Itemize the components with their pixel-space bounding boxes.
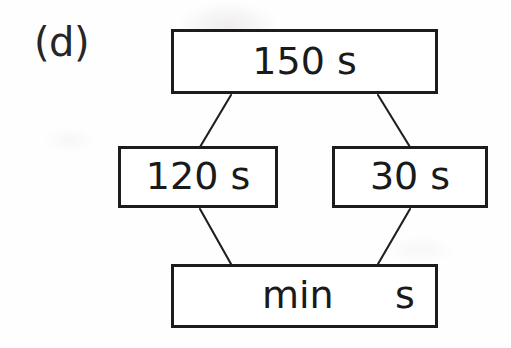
node-total-box: 150 s [171,29,438,94]
connector-part-left-to-answer [200,209,231,264]
connector-total-to-part-right [378,95,410,147]
node-answer-box[interactable]: min s [171,264,438,328]
connector-part-right-to-answer [378,209,410,264]
answer-unit-seconds: s [395,276,415,314]
node-total-label: 150 s [252,42,356,80]
panel-label: (d) [34,22,89,62]
answer-inner: min s [174,267,435,325]
node-part-left-box: 120 s [118,146,278,208]
answer-unit-minutes: min [262,276,334,314]
connector-total-to-part-left [200,95,231,147]
node-part-right-label: 30 s [370,157,450,195]
node-part-right-box: 30 s [332,146,488,208]
node-part-left-label: 120 s [146,157,250,195]
part-whole-diagram: (d) 150 s 120 s 30 s min s [0,0,511,348]
